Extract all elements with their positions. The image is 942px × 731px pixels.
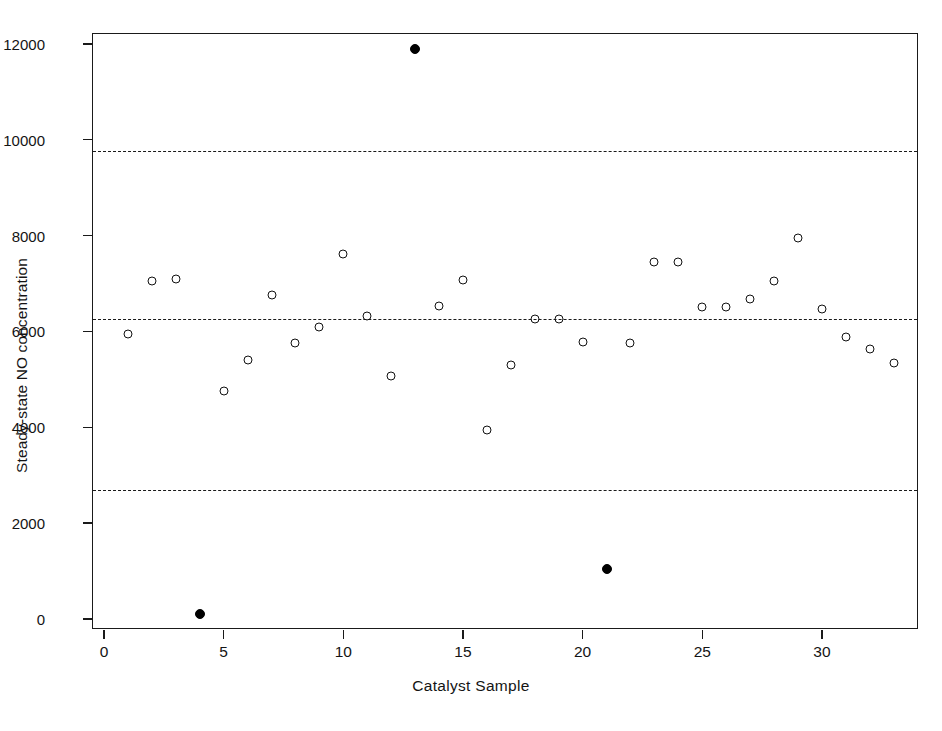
y-tick-0	[83, 618, 92, 619]
y-tick-label-10000: 10000	[3, 131, 45, 148]
x-tick-label-15: 15	[454, 643, 471, 661]
data-point-sample-24	[674, 258, 683, 267]
x-tick-0	[103, 630, 104, 639]
plot-area-frame	[92, 33, 918, 629]
data-point-sample-19	[554, 315, 563, 324]
data-point-sample-16	[482, 425, 491, 434]
x-tick-5	[223, 630, 224, 639]
y-tick-12000	[83, 43, 92, 44]
data-point-sample-30	[817, 304, 826, 313]
data-point-sample-31	[841, 333, 850, 342]
y-tick-8000	[83, 235, 92, 236]
data-point-sample-10	[339, 249, 348, 258]
data-point-sample-17	[506, 360, 515, 369]
x-tick-label-20: 20	[574, 643, 591, 661]
data-point-sample-6	[243, 356, 252, 365]
y-tick-label-6000: 6000	[12, 323, 45, 340]
y-tick-6000	[83, 331, 92, 332]
x-tick-15	[462, 630, 463, 639]
x-axis-title: Catalyst Sample	[0, 677, 942, 695]
x-tick-label-30: 30	[813, 643, 830, 661]
x-tick-10	[343, 630, 344, 639]
data-point-sample-5	[219, 387, 228, 396]
data-point-sample-27	[746, 295, 755, 304]
x-tick-label-5: 5	[219, 643, 228, 661]
data-point-sample-3	[171, 274, 180, 283]
y-tick-label-0: 0	[37, 611, 45, 628]
x-tick-label-0: 0	[100, 643, 109, 661]
data-point-sample-4	[195, 609, 205, 619]
data-point-sample-29	[793, 233, 802, 242]
data-point-sample-28	[770, 276, 779, 285]
y-tick-label-4000: 4000	[12, 419, 45, 436]
upper-control-limit	[93, 151, 917, 152]
center-line	[93, 319, 917, 320]
data-point-sample-26	[722, 302, 731, 311]
data-point-sample-8	[291, 338, 300, 347]
data-point-sample-15	[458, 276, 467, 285]
data-point-sample-33	[889, 359, 898, 368]
data-point-sample-32	[865, 344, 874, 353]
data-point-sample-1	[123, 329, 132, 338]
data-point-sample-20	[578, 338, 587, 347]
y-tick-4000	[83, 427, 92, 428]
y-tick-label-8000: 8000	[12, 227, 45, 244]
y-tick-label-12000: 12000	[3, 35, 45, 52]
data-point-sample-22	[626, 339, 635, 348]
data-point-sample-21	[602, 564, 612, 574]
data-point-sample-11	[363, 312, 372, 321]
x-tick-25	[702, 630, 703, 639]
data-point-sample-13	[410, 44, 420, 54]
scatter-chart-figure: Steady-state NO concentration Catalyst S…	[0, 0, 942, 731]
x-tick-label-10: 10	[335, 643, 352, 661]
x-tick-label-25: 25	[694, 643, 711, 661]
data-point-sample-25	[698, 302, 707, 311]
data-point-sample-7	[267, 291, 276, 300]
data-point-sample-12	[387, 371, 396, 380]
data-point-sample-9	[315, 322, 324, 331]
y-tick-label-2000: 2000	[12, 515, 45, 532]
data-point-sample-14	[435, 301, 444, 310]
x-tick-30	[821, 630, 822, 639]
lower-control-limit	[93, 490, 917, 491]
y-tick-2000	[83, 522, 92, 523]
data-point-sample-23	[650, 258, 659, 267]
y-tick-10000	[83, 139, 92, 140]
x-tick-20	[582, 630, 583, 639]
data-point-sample-2	[147, 276, 156, 285]
data-point-sample-18	[530, 315, 539, 324]
